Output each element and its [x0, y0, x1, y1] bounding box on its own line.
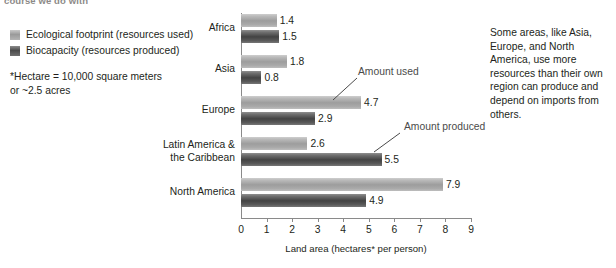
- x-axis-spine: [241, 218, 471, 219]
- callout-amount-used: Amount used: [358, 66, 419, 77]
- category-label: North America: [60, 186, 235, 199]
- bar-ecological-footprint: [241, 137, 307, 150]
- x-tick-mark: [394, 218, 395, 222]
- bar-biocapacity: [241, 194, 366, 207]
- x-tick-label: 7: [410, 224, 430, 235]
- x-tick-mark: [267, 218, 268, 222]
- bar-biocapacity: [241, 30, 279, 43]
- bar-value-label: 4.7: [364, 97, 378, 108]
- x-tick-label: 2: [282, 224, 302, 235]
- callout-amount-produced: Amount produced: [404, 121, 485, 132]
- x-tick-label: 6: [384, 224, 404, 235]
- x-tick-mark: [369, 218, 370, 222]
- bar-value-label: 4.9: [369, 195, 383, 206]
- bar-value-label: 7.9: [446, 179, 460, 190]
- bar-biocapacity: [241, 71, 261, 84]
- legend-swatch-light-icon: [10, 30, 20, 40]
- x-tick-label: 0: [231, 224, 251, 235]
- x-tick-label: 1: [257, 224, 277, 235]
- legend-item-biocapacity: Biocapacity (resources produced): [10, 44, 235, 57]
- x-tick-label: 9: [461, 224, 481, 235]
- category-label-line: Europe: [60, 104, 235, 117]
- footnote-line-2: or ~2.5 acres: [10, 84, 230, 98]
- x-axis-title: Land area (hectares* per person): [241, 243, 471, 254]
- x-tick-mark: [420, 218, 421, 222]
- category-label-line: North America: [60, 186, 235, 199]
- category-label: Latin America &the Caribbean: [60, 139, 235, 164]
- legend-label-biocapacity: Biocapacity (resources produced): [26, 44, 179, 57]
- bar-value-label: 1.5: [282, 31, 296, 42]
- bar-value-label: 0.8: [264, 72, 278, 83]
- callout-leader-line-used: [333, 77, 361, 101]
- x-tick-mark: [292, 218, 293, 222]
- side-note-text: Some areas, like Asia, Europe, and North…: [490, 26, 614, 121]
- category-label: Africa: [60, 22, 235, 35]
- bar-ecological-footprint: [241, 14, 277, 27]
- x-tick-mark: [471, 218, 472, 222]
- category-label-line: the Caribbean: [60, 152, 235, 165]
- bar-ecological-footprint: [241, 55, 287, 68]
- category-label: Europe: [60, 104, 235, 117]
- bar-value-label: 2.6: [310, 138, 324, 149]
- x-tick-label: 5: [359, 224, 379, 235]
- category-label-line: Africa: [60, 22, 235, 35]
- bar-value-label: 1.4: [280, 15, 294, 26]
- cropped-running-head: course we do with: [4, 0, 88, 4]
- bar-value-label: 2.9: [318, 113, 332, 124]
- bar-biocapacity: [241, 112, 315, 125]
- category-label: Asia: [60, 63, 235, 76]
- bar-biocapacity: [241, 153, 382, 166]
- x-tick-mark: [318, 218, 319, 222]
- x-tick-label: 4: [333, 224, 353, 235]
- bar-value-label: 5.5: [385, 154, 399, 165]
- category-label-line: Asia: [60, 63, 235, 76]
- x-tick-mark: [445, 218, 446, 222]
- bar-value-label: 1.8: [290, 56, 304, 67]
- x-tick-label: 8: [435, 224, 455, 235]
- category-label-line: Latin America &: [60, 139, 235, 152]
- x-tick-label: 3: [308, 224, 328, 235]
- x-tick-mark: [343, 218, 344, 222]
- legend-swatch-dark-icon: [10, 46, 20, 56]
- bar-ecological-footprint: [241, 178, 443, 191]
- callout-leader-line-produced: [374, 131, 404, 153]
